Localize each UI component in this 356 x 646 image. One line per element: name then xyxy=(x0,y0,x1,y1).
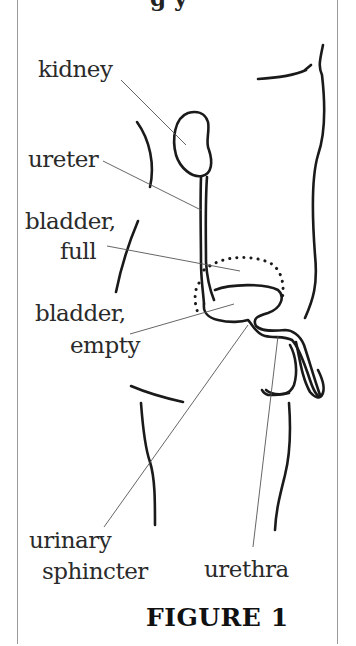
label-urethra: urethra xyxy=(204,556,289,582)
left-hip-curve xyxy=(131,386,183,402)
figure-title: FIGURE 1 xyxy=(146,603,289,632)
label-urinary-sphincter-line2: sphincter xyxy=(42,558,148,584)
label-bladder-empty-line1: bladder, xyxy=(35,300,126,326)
right-leg-line xyxy=(275,403,290,530)
ureter-tube-right xyxy=(206,177,214,300)
leader-bladder-full xyxy=(107,246,240,271)
torso-right-contour xyxy=(258,45,324,318)
label-urinary-sphincter-line1: urinary xyxy=(29,527,111,553)
label-bladder-full-line2: full xyxy=(60,238,96,264)
scrotum-contour xyxy=(262,345,296,395)
ureter-tube-left xyxy=(201,177,204,304)
label-bladder-empty-line2: empty xyxy=(70,332,140,358)
left-leg-line xyxy=(141,403,155,525)
kidney-shape xyxy=(174,112,211,176)
leader-kidney xyxy=(121,80,186,145)
leader-urethra xyxy=(253,336,278,547)
bladder-empty-lower xyxy=(204,304,321,396)
label-kidney: kidney xyxy=(38,56,112,82)
label-ureter: ureter xyxy=(28,146,98,172)
torso-left-arc xyxy=(137,122,152,187)
label-bladder-full-line1: bladder, xyxy=(25,208,116,234)
hip-left-line xyxy=(116,221,138,292)
